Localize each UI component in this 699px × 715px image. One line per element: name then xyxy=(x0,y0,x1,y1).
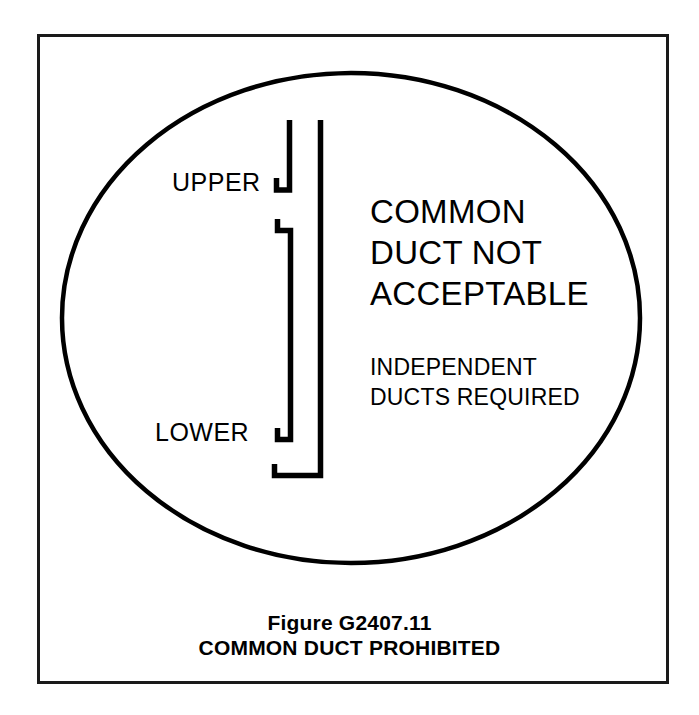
figure-graphics xyxy=(0,0,699,715)
headline-line-2: DUCT NOT xyxy=(370,232,542,273)
figure-container: UPPER LOWER COMMON DUCT NOT ACCEPTABLE I… xyxy=(0,0,699,715)
subline-1: INDEPENDENT xyxy=(370,352,537,382)
subline-2: DUCTS REQUIRED xyxy=(370,382,580,412)
caption-title: COMMON DUCT PROHIBITED xyxy=(0,636,699,660)
label-upper: UPPER xyxy=(172,168,261,197)
caption-figure-number: Figure G2407.11 xyxy=(0,611,699,635)
headline-line-1: COMMON xyxy=(370,191,526,232)
label-lower: LOWER xyxy=(155,418,249,447)
ellipse-outline xyxy=(62,73,640,563)
headline-line-3: ACCEPTABLE xyxy=(370,273,589,314)
